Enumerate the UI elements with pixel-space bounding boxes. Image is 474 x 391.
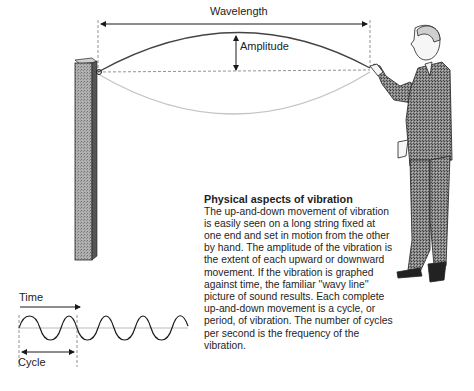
caption-body: The up-and-down movement of vibration is…	[204, 206, 394, 352]
cycle-label: Cycle	[18, 356, 46, 368]
string-lower	[98, 72, 370, 114]
amplitude-label: Amplitude	[240, 40, 289, 52]
wavelength-guides	[98, 20, 370, 72]
caption-title: Physical aspects of vibration	[204, 193, 394, 206]
time-label: Time	[19, 291, 43, 303]
wooden-post	[75, 58, 102, 260]
caption: Physical aspects of vibration The up-and…	[204, 193, 394, 352]
wavelength-label: Wavelength	[210, 5, 268, 17]
string-upper	[98, 32, 370, 72]
